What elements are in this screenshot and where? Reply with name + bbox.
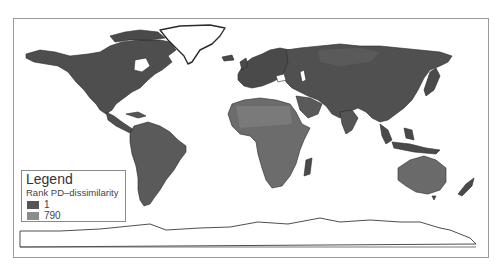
legend-box: Legend Rank PD–dissimilarity 1 790 bbox=[21, 170, 126, 222]
legend-swatch-light bbox=[27, 212, 39, 220]
legend-item-790: 790 bbox=[26, 210, 121, 221]
legend-subtitle: Rank PD–dissimilarity bbox=[26, 187, 121, 199]
legend-item-label: 1 bbox=[44, 199, 50, 210]
south-america bbox=[130, 122, 186, 206]
world-map bbox=[0, 0, 501, 270]
antarctica bbox=[20, 218, 476, 247]
legend-item-1: 1 bbox=[26, 199, 121, 210]
legend-title: Legend bbox=[26, 172, 121, 187]
legend-item-label: 790 bbox=[44, 210, 61, 221]
australia bbox=[398, 156, 446, 194]
legend-swatch-dark bbox=[27, 201, 39, 209]
north-america bbox=[26, 40, 176, 114]
